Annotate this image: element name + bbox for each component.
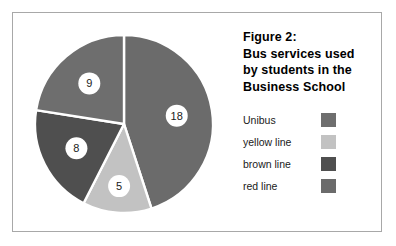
legend-list: Unibus yellow line brown line red line [243,109,383,197]
legend-item-brown-line[interactable]: brown line [243,153,383,175]
legend-label: yellow line [243,136,321,148]
legend-panel: Figure 2: Bus services used by students … [235,13,383,233]
legend-label: brown line [243,158,321,170]
slice-label-value: 18 [171,110,183,122]
pie-chart-svg: 18 5 8 9 [13,13,235,233]
legend-item-yellow-line[interactable]: yellow line [243,131,383,153]
figure-frame: 18 5 8 9 Figure 2: Bus services used by … [12,12,382,232]
legend-swatch-icon [321,135,336,149]
legend-item-red-line[interactable]: red line [243,175,383,197]
chart-title-line-3: by students in the [243,62,383,79]
pie-chart: 18 5 8 9 [13,13,235,233]
legend-label: red line [243,180,321,192]
legend-swatch-icon [321,113,336,127]
slice-label-value: 9 [86,77,92,89]
legend-swatch-icon [321,157,336,171]
chart-title: Figure 2: Bus services used by students … [243,29,383,95]
chart-title-line-4: Business School [243,79,383,96]
legend-item-unibus[interactable]: Unibus [243,109,383,131]
slice-label-value: 8 [73,142,79,154]
legend-swatch-icon [321,179,336,193]
chart-title-line-2: Bus services used [243,46,383,63]
legend-label: Unibus [243,114,321,126]
slice-label-value: 5 [116,180,122,192]
chart-title-line-1: Figure 2: [243,29,383,46]
